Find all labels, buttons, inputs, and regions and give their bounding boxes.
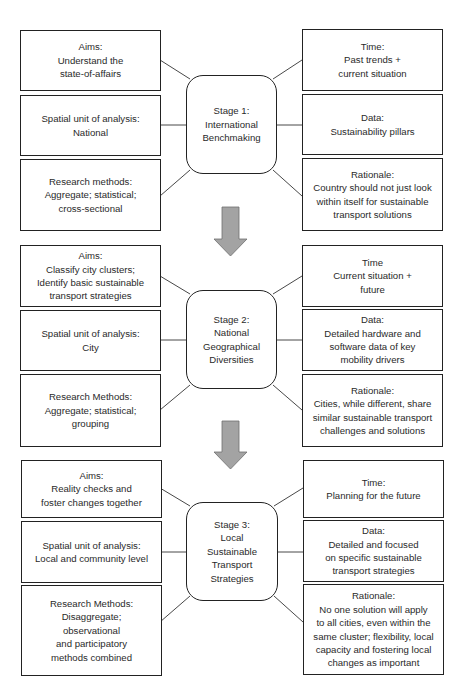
stage1-spatial-text: Spatial unit of analysis: National <box>41 112 139 139</box>
stage3-rationale-text: Rationale: No one solution will apply to… <box>313 589 433 669</box>
stage3-methods-text: Research Methods: Disaggregate; observat… <box>50 597 133 664</box>
stage2-aims-text: Aims: Classify city clusters; Identify b… <box>37 249 144 303</box>
stage2-methods-box: Research Methods: Aggregate; statistical… <box>20 374 161 447</box>
down-arrow-icon <box>214 207 247 256</box>
stage1-aims-box: Aims: Understand the state-of-affairs <box>20 30 161 91</box>
stage3-spatial-box: Spatial unit of analysis: Local and comm… <box>21 521 162 583</box>
stage1-data-text: Data: Sustainability pillars <box>330 111 414 138</box>
stage2-time-box: Time Current situation + future <box>302 245 443 307</box>
stage2-aims-box: Aims: Classify city clusters; Identify b… <box>20 245 161 307</box>
stage1-aims-text: Aims: Understand the state-of-affairs <box>58 40 124 80</box>
stage1-time-box: Time: Past trends + current situation <box>302 29 443 91</box>
stage3-methods-box: Research Methods: Disaggregate; observat… <box>21 585 162 676</box>
stage1-spatial-box: Spatial unit of analysis: National <box>20 95 161 156</box>
stage2-title: Stage 2: National Geographical Diversiti… <box>203 313 260 367</box>
stage2-rationale-box: Rationale: Cities, while different, shar… <box>302 374 443 447</box>
stage2-spatial-box: Spatial unit of analysis: City <box>20 310 161 371</box>
stage1-time-text: Time: Past trends + current situation <box>338 40 406 80</box>
stage1-data-box: Data: Sustainability pillars <box>302 94 443 155</box>
stage1-center-box: Stage 1: International Benchmaking <box>186 75 277 174</box>
stage2-rationale-text: Rationale: Cities, while different, shar… <box>313 384 432 438</box>
stage3-rationale-box: Rationale: No one solution will apply to… <box>303 584 444 675</box>
stage1-methods-box: Research methods: Aggregate; statistical… <box>20 159 161 231</box>
stage3-title: Stage 3: Local Sustainable Transport Str… <box>207 518 257 585</box>
stage2-center-box: Stage 2: National Geographical Diversiti… <box>186 290 277 389</box>
stage3-aims-box: Aims: Reality checks and foster changes … <box>21 460 162 518</box>
down-arrow-icon <box>214 421 247 469</box>
stage2-methods-text: Research Methods: Aggregate; statistical… <box>45 390 137 430</box>
stage2-spatial-text: Spatial unit of analysis: City <box>41 327 139 354</box>
stage3-data-box: Data: Detailed and focused on specific s… <box>303 520 444 582</box>
stage3-aims-text: Aims: Reality checks and foster changes … <box>41 469 142 509</box>
stage1-methods-text: Research methods: Aggregate; statistical… <box>45 175 137 215</box>
stage3-time-box: Time: Planning for the future <box>303 460 444 518</box>
stage1-title: Stage 1: International Benchmaking <box>202 104 260 144</box>
stage3-center-box: Stage 3: Local Sustainable Transport Str… <box>186 502 278 601</box>
stage1-rationale-box: Rationale: Country should not just look … <box>302 158 443 231</box>
stage2-data-box: Data: Detailed hardware and software dat… <box>302 309 443 371</box>
stage3-data-text: Data: Detailed and focused on specific s… <box>325 524 422 578</box>
stage1-rationale-text: Rationale: Country should not just look … <box>313 168 431 222</box>
stage3-spatial-text: Spatial unit of analysis: Local and comm… <box>35 539 148 566</box>
stage2-time-text: Time Current situation + future <box>333 256 412 296</box>
stage2-data-text: Data: Detailed hardware and software dat… <box>324 313 421 367</box>
stage3-time-text: Time: Planning for the future <box>326 476 420 503</box>
